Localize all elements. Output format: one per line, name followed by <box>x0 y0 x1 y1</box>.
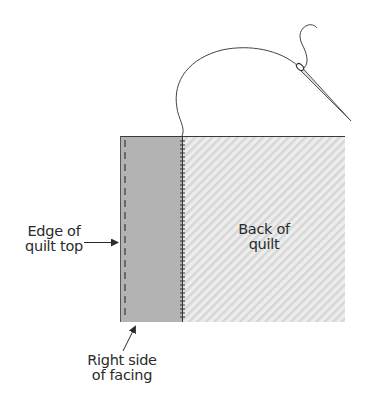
facing-panel <box>120 136 182 322</box>
right-side-of-facing-label: Right side of facing <box>72 353 172 383</box>
facing-label-line-1: Right side <box>72 353 172 368</box>
thread <box>176 48 298 136</box>
quilt-facing-diagram <box>0 0 372 413</box>
edge-label-line-2: quilt top <box>14 239 94 254</box>
facing-label-line-2: of facing <box>72 368 172 383</box>
facing-arrow <box>123 327 135 351</box>
back-label-line-2: quilt <box>224 237 304 252</box>
thread-tail <box>300 25 317 68</box>
edge-label-line-1: Edge of <box>14 224 94 239</box>
needle-icon <box>295 62 351 121</box>
back-label-line-1: Back of <box>224 222 304 237</box>
edge-of-quilt-top-label: Edge of quilt top <box>14 224 94 254</box>
back-of-quilt-label: Back of quilt <box>224 222 304 252</box>
